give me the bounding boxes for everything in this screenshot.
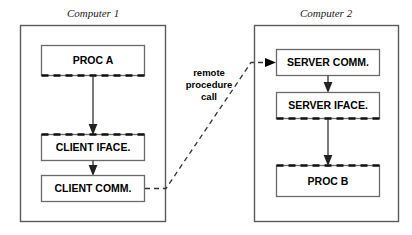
rpc-label-line-3: call [201, 91, 217, 102]
rpc-label-line-2: procedure [186, 79, 232, 90]
flow-arrow-server-comm-to-server-iface [324, 76, 333, 94]
rpc-label-line-1: remote [193, 67, 225, 78]
container-title-computer-1: Computer 1 [67, 7, 119, 19]
rpc-connector[interactable]: remote procedure call [145, 58, 276, 188]
node-proc-a-label: PROC A [73, 54, 114, 66]
node-proc-a[interactable]: PROC A [42, 46, 145, 76]
node-proc-b[interactable]: PROC B [277, 166, 380, 197]
node-server-comm[interactable]: SERVER COMM. [277, 50, 380, 76]
node-client-comm[interactable]: CLIENT COMM. [42, 176, 145, 202]
container-computer-1: Computer 1 PROC A CLIENT IFACE. [21, 7, 166, 222]
diagram-canvas: Computer 1 PROC A CLIENT IFACE. [0, 0, 412, 235]
rpc-diagram: Computer 1 PROC A CLIENT IFACE. [0, 0, 412, 235]
container-title-computer-2: Computer 2 [300, 7, 353, 19]
flow-arrow-client-iface-to-client-comm [89, 161, 98, 177]
node-client-iface[interactable]: CLIENT IFACE. [42, 135, 145, 161]
flow-arrow-proc-a-to-client-iface [89, 76, 98, 135]
flow-arrow-server-iface-to-proc-b [324, 119, 333, 166]
node-server-iface-label: SERVER IFACE. [288, 99, 368, 111]
container-computer-2: Computer 2 SERVER COMM. SERVER IFACE. [255, 7, 399, 222]
node-client-iface-label: CLIENT IFACE. [56, 141, 131, 153]
node-client-comm-label: CLIENT COMM. [55, 182, 132, 194]
rpc-connector-arrowhead [265, 58, 276, 67]
node-server-comm-label: SERVER COMM. [287, 56, 369, 68]
node-proc-b-label: PROC B [308, 175, 349, 187]
node-server-iface[interactable]: SERVER IFACE. [277, 93, 380, 119]
